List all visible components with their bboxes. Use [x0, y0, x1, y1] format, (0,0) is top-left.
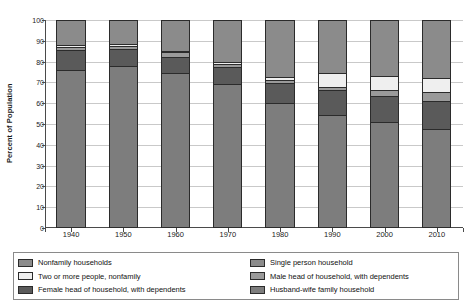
x-tick-label-1970: 1970 [220, 230, 237, 239]
legend-item-husband-wife-family-household[interactable]: Husband-wife family household [250, 286, 460, 294]
bar-segment-1950-series-2[interactable] [109, 46, 138, 49]
bar-segment-1990-series-1[interactable] [318, 90, 347, 115]
x-tick-label-1960: 1960 [167, 230, 184, 239]
bar-segment-2000-series-3[interactable] [370, 76, 399, 90]
chart-screenshot: Percent of Population 010203040506070809… [0, 0, 472, 307]
bar-segment-1980-series-0[interactable] [265, 103, 294, 228]
legend-swatch-male-head-of-household [250, 272, 265, 280]
bar-segment-1960-series-1[interactable] [161, 57, 190, 73]
bar-2000[interactable] [370, 20, 399, 228]
legend-item-two-or-more-people-nonfamily[interactable]: Two or more people, nonfamily [18, 272, 250, 280]
bar-segment-1970-series-1[interactable] [213, 67, 242, 85]
bar-1950[interactable] [109, 20, 138, 228]
bar-segment-1970-series-3[interactable] [213, 62, 242, 64]
legend-label-two-or-more-people-nonfamily: Two or more people, nonfamily [38, 273, 141, 281]
y-tick-label-60: 60 [18, 100, 44, 107]
x-tick-label-1950: 1950 [115, 230, 132, 239]
bar-segment-2010-series-2[interactable] [422, 92, 451, 101]
legend-item-single-person-household[interactable]: Single person household [250, 259, 460, 267]
legend-label-husband-wife-family-household: Husband-wife family household [270, 286, 374, 294]
bar-segment-1950-series-3[interactable] [109, 44, 138, 46]
bar-segment-1970-series-0[interactable] [213, 84, 242, 228]
y-tick-label-100: 100 [18, 17, 44, 24]
x-tick-label-2000: 2000 [376, 230, 393, 239]
x-axis-edge-tick-1 [463, 228, 464, 232]
bar-segment-1980-series-3[interactable] [265, 77, 294, 80]
y-axis-tick-labels: 0102030405060708090100 [16, 14, 44, 236]
legend-grid: Nonfamily households Single person house… [18, 256, 454, 297]
bar-segment-1990-series-3[interactable] [318, 73, 347, 87]
chart-legend: Nonfamily households Single person house… [13, 252, 459, 300]
stacked-bars-group [45, 20, 463, 228]
bar-segment-1990-series-4[interactable] [318, 20, 347, 73]
chart-plot-area: Percent of Population 010203040506070809… [0, 0, 472, 250]
legend-swatch-two-or-more-people-nonfamily [18, 272, 33, 280]
legend-item-female-head-of-household[interactable]: Female head of household, with dependent… [18, 286, 250, 294]
bar-2010[interactable] [422, 20, 451, 228]
legend-item-nonfamily-households[interactable]: Nonfamily households [18, 259, 250, 267]
bar-segment-1970-series-4[interactable] [213, 20, 242, 62]
bar-segment-1940-series-4[interactable] [56, 20, 85, 45]
bar-1960[interactable] [161, 20, 190, 228]
bar-segment-1990-series-2[interactable] [318, 87, 347, 90]
y-tick-label-80: 80 [18, 58, 44, 65]
x-tick-label-1990: 1990 [324, 230, 341, 239]
y-tick-label-50: 50 [18, 121, 44, 128]
x-axis-tick-labels: 19401950196019701980199020002010 [45, 230, 463, 244]
bar-segment-2000-series-0[interactable] [370, 122, 399, 228]
bar-segment-1980-series-2[interactable] [265, 80, 294, 83]
x-tick-label-1980: 1980 [272, 230, 289, 239]
legend-label-male-head-of-household: Male head of household, with dependents [270, 273, 409, 281]
y-tick-label-70: 70 [18, 79, 44, 86]
bar-segment-2010-series-4[interactable] [422, 20, 451, 78]
bar-1980[interactable] [265, 20, 294, 228]
legend-label-female-head-of-household: Female head of household, with dependent… [38, 286, 186, 294]
y-tick-label-30: 30 [18, 162, 44, 169]
bar-1970[interactable] [213, 20, 242, 228]
legend-item-male-head-of-household[interactable]: Male head of household, with dependents [250, 272, 460, 280]
bar-segment-1950-series-4[interactable] [109, 20, 138, 44]
bar-segment-1940-series-2[interactable] [56, 47, 85, 50]
y-tick-label-20: 20 [18, 183, 44, 190]
y-tick-label-40: 40 [18, 141, 44, 148]
y-axis-title: Percent of Population [2, 48, 16, 198]
bar-segment-1990-series-0[interactable] [318, 115, 347, 228]
legend-swatch-nonfamily-households [18, 259, 33, 267]
legend-label-nonfamily-households: Nonfamily households [38, 259, 112, 267]
bar-segment-1980-series-4[interactable] [265, 20, 294, 77]
bar-segment-1960-series-3[interactable] [161, 51, 190, 52]
x-tick-label-1940: 1940 [63, 230, 80, 239]
bar-segment-2000-series-4[interactable] [370, 20, 399, 76]
legend-label-single-person-household: Single person household [270, 259, 353, 267]
bar-segment-2000-series-2[interactable] [370, 90, 399, 96]
bar-segment-2010-series-3[interactable] [422, 78, 451, 92]
bar-segment-1970-series-2[interactable] [213, 64, 242, 67]
x-tick-label-2010: 2010 [429, 230, 446, 239]
bar-1940[interactable] [56, 20, 85, 228]
bar-segment-1950-series-1[interactable] [109, 49, 138, 66]
legend-swatch-female-head-of-household [18, 286, 33, 294]
bar-segment-1950-series-0[interactable] [109, 66, 138, 228]
legend-swatch-husband-wife-family-household [250, 286, 265, 294]
bar-segment-1940-series-0[interactable] [56, 70, 85, 228]
y-tick-label-10: 10 [18, 204, 44, 211]
bar-segment-1980-series-1[interactable] [265, 83, 294, 103]
bar-segment-2010-series-0[interactable] [422, 129, 451, 228]
bar-segment-1960-series-4[interactable] [161, 20, 190, 51]
bar-segment-2010-series-1[interactable] [422, 101, 451, 129]
bar-segment-1960-series-0[interactable] [161, 73, 190, 228]
y-tick-label-90: 90 [18, 37, 44, 44]
legend-swatch-single-person-household [250, 259, 265, 267]
bar-segment-2000-series-1[interactable] [370, 96, 399, 122]
bar-segment-1940-series-3[interactable] [56, 45, 85, 47]
y-tick-label-0: 0 [18, 225, 44, 232]
bar-1990[interactable] [318, 20, 347, 228]
bar-segment-1940-series-1[interactable] [56, 50, 85, 70]
bar-segment-1960-series-2[interactable] [161, 52, 190, 57]
